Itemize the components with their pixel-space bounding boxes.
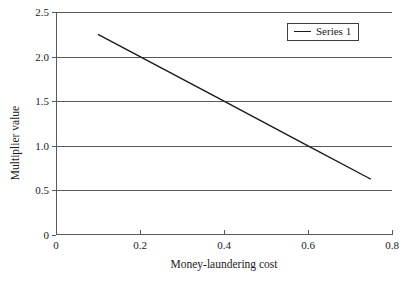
x-tick-label: 0 (53, 240, 59, 251)
x-tick-label: 0.4 (217, 240, 231, 251)
y-tick-mark (52, 235, 56, 236)
chart-legend: Series 1 (287, 23, 359, 41)
y-tick-label: 1.5 (35, 96, 49, 107)
chart-figure: Multiplier value Money-laundering cost 0… (0, 0, 411, 285)
x-tick-label: 0.8 (385, 240, 399, 251)
y-tick-label: 0 (44, 230, 50, 241)
x-axis-title: Money-laundering cost (56, 258, 392, 270)
x-tick-label: 0.6 (301, 240, 315, 251)
series-line-series-1 (56, 12, 392, 235)
y-tick-label: 2.5 (35, 7, 49, 18)
legend-label-series-1: Series 1 (316, 26, 351, 37)
x-tick-label: 0.2 (133, 240, 147, 251)
plot-area: 00.51.01.52.02.5 00.20.40.60.8 (56, 12, 392, 235)
y-axis-title: Multiplier value (9, 68, 21, 218)
x-tick-mark (392, 230, 393, 235)
y-tick-label: 1.0 (35, 140, 49, 151)
legend-swatch-series-1 (294, 31, 311, 32)
y-tick-label: 0.5 (35, 185, 49, 196)
y-tick-label: 2.0 (35, 51, 49, 62)
